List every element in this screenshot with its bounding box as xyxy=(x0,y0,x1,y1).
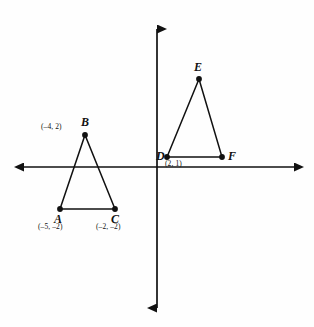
vertex-point-e xyxy=(196,76,202,82)
coordinate-axes-and-triangles xyxy=(0,0,314,327)
vertex-label-b: B xyxy=(81,116,89,128)
vertex-coord-c: (–2, –2) xyxy=(96,223,121,231)
vertex-point-b xyxy=(82,132,88,138)
vertex-label-e: E xyxy=(194,61,202,73)
triangle-def xyxy=(167,79,222,157)
coordinate-plane-figure: B (–4, 2) A (–5, –2) C (–2, –2) E D (2, … xyxy=(0,0,314,327)
vertex-label-d: D xyxy=(156,150,165,162)
vertex-label-f: F xyxy=(228,150,236,162)
vertex-coord-b: (–4, 2) xyxy=(41,123,62,131)
triangle-abc xyxy=(60,135,115,209)
vertex-coord-d: (2, 1) xyxy=(165,160,182,168)
vertex-point-f xyxy=(219,154,225,160)
vertex-coord-a: (–5, –2) xyxy=(38,223,63,231)
